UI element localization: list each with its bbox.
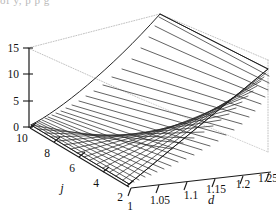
z-tick-10: 10 — [8, 68, 20, 80]
plot-canvas: 15 10 5 0 10 8 6 4 2 j — [0, 0, 276, 223]
d-axis: 1 1.05 1.1 1.15 1.2 1.25 d — [127, 172, 276, 212]
z-tick-15: 15 — [8, 42, 20, 54]
j-tick-4: 4 — [93, 177, 99, 189]
d-tick-1-05: 1.05 — [150, 194, 170, 206]
j-tick-2: 2 — [117, 191, 123, 203]
d-tick-1-1: 1.1 — [184, 189, 199, 201]
z-tick-5: 5 — [13, 95, 19, 107]
j-axis-title: j — [58, 181, 64, 195]
surface-mesh — [31, 14, 269, 184]
j-tick-6: 6 — [69, 162, 75, 174]
d-tick-1-2: 1.2 — [236, 178, 251, 190]
j-tick-8: 8 — [44, 147, 50, 159]
d-axis-title: d — [208, 193, 215, 207]
surface-silhouette — [31, 14, 268, 184]
j-tick-10: 10 — [16, 132, 28, 144]
z-axis: 15 10 5 0 — [8, 42, 34, 133]
d-tick-1: 1 — [127, 200, 133, 212]
d-tick-1-25: 1.25 — [258, 172, 276, 184]
surface-plot-figure: of y, p p g — [0, 0, 276, 223]
